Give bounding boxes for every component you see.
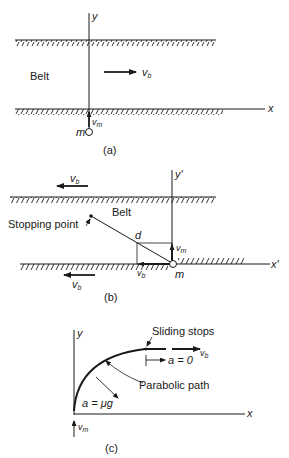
belt-label: Belt [30,70,49,82]
top-belt-velocity-label: vb [70,172,80,185]
bottom-belt-velocity-label: vb [72,278,82,291]
y-axis-label: y [91,10,99,22]
stopping-point-leader [86,219,90,226]
zero-accel-label: a = 0 [168,354,194,366]
parabolic-path-label: Parabolic path [139,379,209,391]
top-belt-edge [10,197,216,203]
accel-arrow [96,377,118,398]
belt-friction-diagram: x y Belt vb vm m (a) vb y' [0,0,289,458]
caption-c: (c) [105,442,118,454]
mass-label: m [76,126,85,138]
mass-circle [170,261,177,268]
bottom-belt-edge [15,109,265,115]
sliding-stops-label: Sliding stops [152,325,215,337]
accel-label: a = μg [82,397,114,409]
mass-label: m [175,268,184,280]
panel-c: y x vb Sliding stops a = 0 Parabolic pat… [74,325,253,454]
y-prime-axis-label: y' [174,168,184,180]
caption-a: (a) [103,144,116,156]
x-prime-axis-label: x' [270,258,280,270]
distance-label: d [135,229,142,241]
initial-velocity-label: vm [78,422,89,433]
y-axis-label: y [76,327,84,339]
belt-velocity-label: vb [142,66,152,79]
stopping-point-label: Stopping point [8,218,78,230]
mass-velocity-label: vm [92,117,103,128]
sliding-stops-point [145,348,148,351]
panel-a: x y Belt vb vm m (a) [15,10,274,156]
panel-b: vb y' x' Belt Stopping point d vm vb [8,168,280,303]
relative-path-line [91,216,172,263]
belt-label: Belt [112,206,131,218]
top-belt-edge [15,40,216,46]
belt-velocity-label: vb [200,348,209,359]
x-axis-label: x [246,407,253,419]
mass-velocity-label: vm [176,243,187,254]
mass-circle [86,129,93,136]
parabolic-path-leader [106,361,143,383]
sliding-stops-leader [147,337,152,346]
caption-b: (b) [104,291,117,303]
x-axis-label: x [267,102,274,114]
